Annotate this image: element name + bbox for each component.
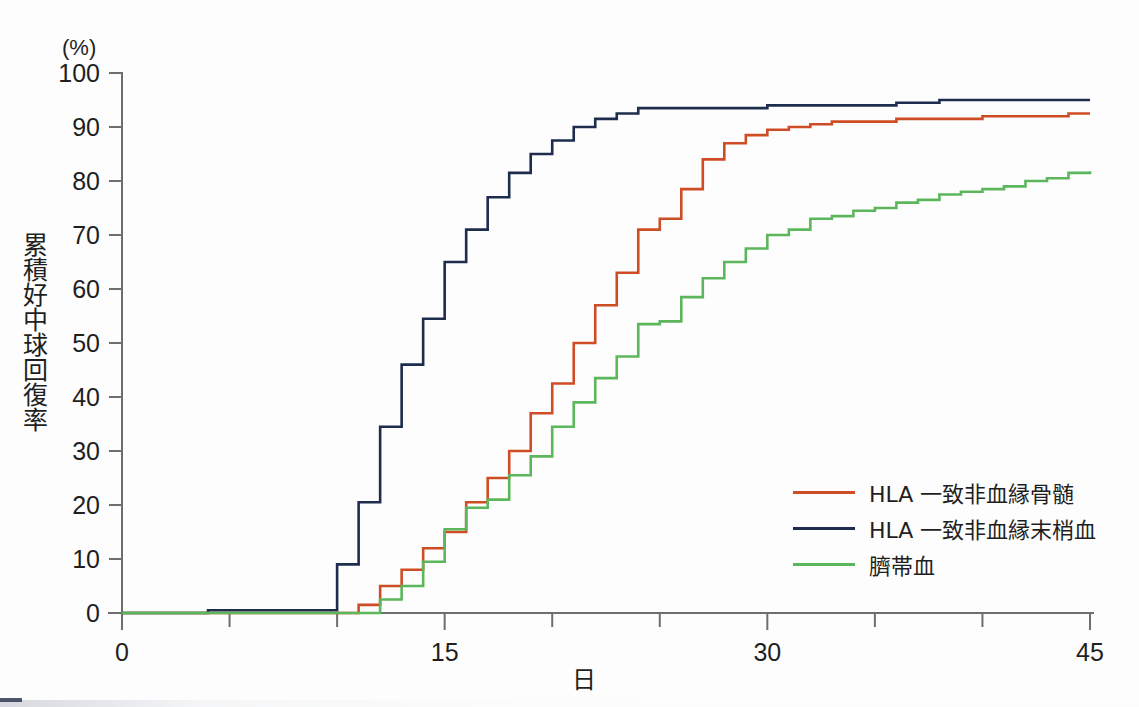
legend-label-2: HLA 一致非血縁末梢血 [869,512,1096,544]
y-axis-ticks: 0102030405060708090100 [58,59,122,627]
y-tick-label-10: 10 [72,545,100,573]
y-tick-label-60: 60 [72,275,100,303]
y-tick-label-50: 50 [72,329,100,357]
legend-swatch-3 [793,563,855,566]
legend-label-1: HLA 一致非血縁骨髄 [869,476,1074,508]
legend-item-cord-blood: 臍帯血 [793,546,1096,582]
y-tick-label-100: 100 [58,59,100,87]
x-tick-label-30: 30 [753,638,781,666]
y-tick-label-0: 0 [86,599,100,627]
legend-item-peripheral-blood: HLA 一致非血縁末梢血 [793,510,1096,546]
legend-item-bone-marrow: HLA 一致非血縁骨髄 [793,474,1096,510]
x-tick-label-0: 0 [115,638,129,666]
neutrophil-recovery-chart: 0102030405060708090100 0153045 (%) 日 [0,0,1139,707]
chart-legend: HLA 一致非血縁骨髄HLA 一致非血縁末梢血臍帯血 [793,474,1096,582]
y-tick-label-90: 90 [72,113,100,141]
y-tick-label-70: 70 [72,221,100,249]
chart-figure: 0102030405060708090100 0153045 (%) 日 累積好… [0,0,1139,707]
y-tick-label-30: 30 [72,437,100,465]
x-axis-title: 日 [572,666,596,693]
x-axis-ticks: 0153045 [115,613,1104,666]
legend-swatch-2 [793,527,855,530]
y-axis-unit-label: (%) [62,35,96,60]
x-tick-label-15: 15 [431,638,459,666]
y-axis-title: 累積好中球回復率 [14,232,46,432]
legend-label-3: 臍帯血 [869,548,935,580]
x-tick-label-45: 45 [1076,638,1104,666]
y-tick-label-40: 40 [72,383,100,411]
y-tick-label-20: 20 [72,491,100,519]
page-edge-smudge [0,700,1139,707]
y-tick-label-80: 80 [72,167,100,195]
page-edge-mark [0,698,22,702]
legend-swatch-1 [793,491,855,494]
